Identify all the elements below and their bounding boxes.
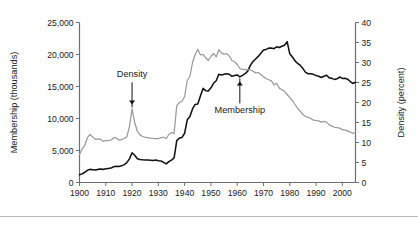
left-tick-label: 25,000 [47,18,74,28]
bottom-tick-label: 2000 [333,188,352,198]
annotation-label-density: Density [117,69,148,79]
bottom-tick-label: 1920 [123,188,142,198]
annotation-label-membership: Membership [215,105,266,115]
annotation-arrowhead-membership [237,81,243,85]
bottom-tick-label: 1910 [96,188,115,198]
bottom-tick-label: 1950 [201,188,220,198]
series-line-density [80,49,356,154]
right-tick-label: 25 [362,78,372,88]
left-tick-label: 0 [69,178,74,188]
bottom-tick-label: 1960 [228,188,247,198]
bottom-tick-label: 1990 [307,188,326,198]
right-tick-label: 30 [362,58,372,68]
right-tick-label: 15 [362,118,372,128]
bottom-tick-label: 1930 [149,188,168,198]
bottom-tick-label: 1980 [280,188,299,198]
left-tick-label: 15,000 [47,82,74,92]
right-tick-label: 40 [362,18,372,28]
bottom-tick-label: 1900 [70,188,89,198]
left-tick-label: 10,000 [47,114,74,124]
right-tick-label: 20 [362,98,372,108]
left-axis-title: Membership (thousands) [9,52,19,154]
right-tick-label: 10 [362,138,372,148]
left-tick-label: 20,000 [47,50,74,60]
right-tick-label: 5 [362,158,367,168]
footer-divider [0,216,418,217]
right-tick-label: 0 [362,178,367,188]
right-tick-label: 35 [362,38,372,48]
bottom-tick-label: 1970 [254,188,273,198]
annotation-arrowhead-density [129,100,135,104]
right-axis-title: Density (percent) [396,68,406,138]
membership-density-line-chart: 05,00010,00015,00020,00025,000Membership… [0,0,418,226]
left-tick-label: 5,000 [52,146,74,156]
chart-figure: 05,00010,00015,00020,00025,000Membership… [0,0,418,226]
bottom-tick-label: 1940 [175,188,194,198]
